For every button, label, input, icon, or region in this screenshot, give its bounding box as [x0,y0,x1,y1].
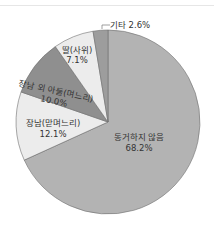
slice-value-daughter: 7.1% [66,55,88,65]
slice-label-not-cohabiting: 동거하지 않음 [114,132,165,142]
leader-line [102,25,110,29]
pie-chart: 동거하지 않음 68.2% 장남(맏며느리) 12.1% 장남 외 아들(며느리… [0,0,214,241]
slice-value-eldest-son: 12.1% [39,129,66,139]
slice-value-not-cohabiting: 68.2% [125,143,152,153]
slice-label-other: 기타 2.6% [110,20,150,30]
slice-label-eldest-son: 장남(맏며느리) [26,118,81,128]
slice-label-daughter: 딸(사위) [62,45,93,55]
